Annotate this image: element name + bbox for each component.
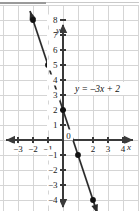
x-tick-label: −2 — [28, 144, 38, 154]
data-point — [90, 197, 96, 203]
grid-lines — [0, 5, 139, 211]
x-tick-label: −3 — [13, 144, 23, 154]
y-tick-label: 5 — [53, 60, 58, 70]
y-tick-label: −4 — [48, 195, 58, 205]
x-tick-label: 4 — [121, 144, 126, 154]
y-axis-name: y — [55, 25, 60, 35]
top-rule-dark — [0, 2, 46, 4]
y-tick-label: −2 — [48, 165, 58, 175]
graph-svg: −3−2−123487654321−1−2−3−40xyy = –3x + 2 — [0, 5, 139, 211]
origin-label: 0 — [66, 131, 71, 141]
y-tick-label: 6 — [53, 45, 58, 55]
y-tick-label: −1 — [48, 150, 58, 160]
coordinate-plane: −3−2−123487654321−1−2−3−40xyy = –3x + 2 … — [0, 5, 139, 211]
data-point — [60, 107, 66, 113]
data-point — [30, 17, 36, 23]
y-axis-arrow-up — [59, 24, 67, 33]
y-tick-label: 1 — [53, 120, 58, 130]
x-axis-arrow-left — [6, 136, 15, 144]
x-tick-label: 2 — [91, 144, 96, 154]
y-tick-label: 8 — [53, 15, 58, 25]
y-tick-label: −3 — [48, 180, 58, 190]
data-point — [75, 152, 81, 158]
equation-annotation: y = –3x + 2 — [74, 84, 120, 94]
graph-figure: −3−2−123487654321−1−2−3−40xyy = –3x + 2 … — [0, 0, 139, 211]
y-tick-label: 3 — [53, 90, 58, 100]
axis-lines — [6, 24, 133, 208]
y-tick-label: 4 — [53, 75, 58, 85]
y-tick-label: 2 — [53, 105, 58, 115]
x-tick-label: 3 — [106, 144, 111, 154]
x-axis-name: x — [126, 142, 131, 152]
